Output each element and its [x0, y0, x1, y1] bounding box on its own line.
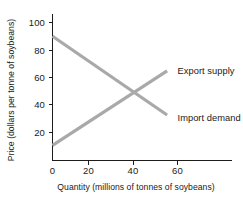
- y-tick-label-40: 40: [34, 99, 45, 110]
- y-axis-title: Price (dollars per tonne of soybeans): [6, 19, 16, 161]
- x-tick-label-0: 0: [50, 165, 55, 176]
- x-tick-label-40: 40: [128, 165, 139, 176]
- x-axis-title: Quantity (millions of tonnes of soybeans…: [57, 182, 214, 192]
- y-tick-label-100: 100: [29, 17, 45, 28]
- y-tick-label-60: 60: [34, 72, 45, 83]
- series-label-import-demand: Import demand: [178, 113, 241, 123]
- x-tick-label-60: 60: [172, 165, 183, 176]
- x-tick-label-20: 20: [83, 165, 94, 176]
- y-tick-label-80: 80: [34, 45, 45, 56]
- series-label-export-supply: Export supply: [178, 66, 235, 76]
- chart-figure: 100 80 60 40 20 0 20 40 60 Export supply…: [0, 0, 243, 200]
- supply-demand-chart: 100 80 60 40 20 0 20 40 60 Export supply…: [0, 0, 243, 200]
- y-tick-label-20: 20: [34, 127, 45, 138]
